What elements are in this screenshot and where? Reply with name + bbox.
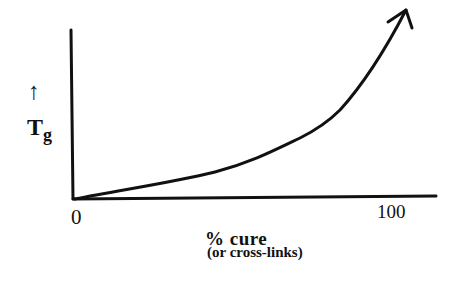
y-axis-label-main: T	[27, 114, 43, 140]
up-arrow-icon: ↑	[28, 78, 40, 105]
x-axis	[73, 196, 436, 199]
y-axis	[71, 30, 73, 199]
x-tick-100: 100	[377, 201, 406, 223]
x-axis-sublabel: (or cross-links)	[207, 244, 303, 261]
x-tick-0: 0	[71, 205, 82, 230]
y-axis-label: Tg	[27, 114, 52, 146]
y-axis-label-subscript: g	[43, 125, 52, 145]
tg-curve	[75, 10, 406, 199]
